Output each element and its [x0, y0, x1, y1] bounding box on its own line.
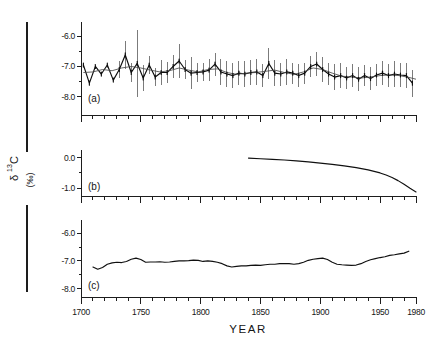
y-axis-units: (‰): [25, 173, 35, 188]
series-corrected: [93, 251, 409, 269]
y-tick-label: -8.0: [62, 284, 76, 294]
x-tick-label: 1800: [192, 307, 210, 317]
y-tick-label: -6.0: [62, 228, 76, 238]
series-smoothed: [83, 66, 416, 79]
panel-label-c: (c): [88, 280, 100, 291]
panel-a: -6.0-7.0-8.0(a): [62, 22, 416, 122]
y-tick-label: -7.0: [62, 61, 76, 71]
x-tick-label: 1700: [72, 307, 90, 317]
series-suess-correction: [249, 158, 417, 192]
y-axis-units-group: (‰): [25, 173, 35, 188]
panel-label-a: (a): [88, 93, 100, 104]
y-tick-label: -6.0: [62, 31, 76, 41]
panel-c: -6.0-7.0-8.01700175018001850190019501980…: [62, 220, 426, 317]
y-tick-label: -1.0: [62, 183, 76, 193]
panel-b: 0.0-1.0(b): [62, 150, 416, 203]
y-tick-label: -7.0: [62, 256, 76, 266]
figure-container: δ 13 C (‰) -6.0-7.0-8.0(a) 0.0-1.0(b) -6…: [0, 0, 436, 338]
panel-label-b: (b): [88, 181, 100, 192]
x-tick-label: 1950: [371, 307, 389, 317]
series-measured: [83, 55, 412, 83]
y-axis-element-c: C: [8, 156, 20, 164]
x-tick-label: 1900: [311, 307, 329, 317]
axis-spine-b: [81, 150, 416, 196]
y-axis-superscript-13: 13: [6, 164, 13, 172]
x-tick-label: 1750: [132, 307, 150, 317]
y-axis-label-group: δ 13 C: [6, 156, 20, 181]
delta13c-figure: δ 13 C (‰) -6.0-7.0-8.0(a) 0.0-1.0(b) -6…: [0, 0, 436, 338]
y-tick-label: 0.0: [64, 153, 75, 163]
y-axis-delta-symbol: δ: [8, 175, 20, 181]
axis-spine-c: [81, 220, 416, 297]
x-tick-label: 1850: [252, 307, 270, 317]
y-tick-label: -8.0: [62, 92, 76, 102]
error-bars: [119, 30, 412, 97]
x-tick-label: 1980: [407, 307, 425, 317]
x-axis-title: YEAR: [229, 323, 267, 335]
data-point-markers: [83, 53, 412, 85]
